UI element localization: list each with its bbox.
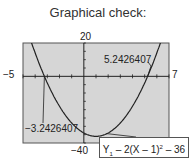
xmax-label: 7 — [172, 69, 178, 80]
xmin-label: −5 — [3, 69, 14, 80]
function-label: Y1 – 2(X – 1)2 – 36 — [99, 137, 189, 158]
ymin-label: −40 — [71, 145, 88, 156]
root-label-left: −3.2426407 — [25, 123, 78, 134]
root-label-right: 5.2426407 — [104, 54, 151, 65]
ymax-label: 20 — [80, 31, 91, 42]
